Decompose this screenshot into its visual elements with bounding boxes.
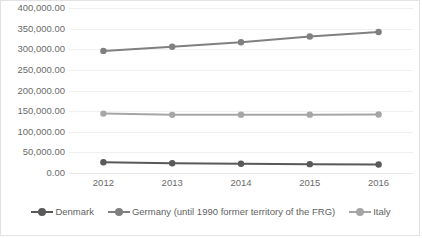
gridline bbox=[69, 173, 413, 174]
y-axis-tick-label: 200,000.00 bbox=[1, 86, 65, 96]
y-axis-tick-label: 400,000.00 bbox=[1, 3, 65, 13]
legend-item[interactable]: Germany (until 1990 former territory of … bbox=[108, 206, 335, 217]
plot-area bbox=[69, 8, 413, 173]
legend-label: Germany (until 1990 former territory of … bbox=[132, 206, 335, 217]
legend-marker-icon bbox=[31, 207, 53, 216]
data-point bbox=[238, 39, 244, 45]
x-axis-tick-label: 2014 bbox=[230, 177, 251, 188]
data-point bbox=[307, 111, 313, 117]
x-axis-tick-label: 2015 bbox=[299, 177, 320, 188]
x-axis-tick-label: 2013 bbox=[162, 177, 183, 188]
data-point bbox=[238, 161, 244, 167]
data-point bbox=[375, 29, 381, 35]
y-axis-tick-label: 100,000.00 bbox=[1, 127, 65, 137]
y-axis: 0.0050,000.00100,000.00150,000.00200,000… bbox=[1, 1, 65, 181]
data-point bbox=[100, 110, 106, 116]
y-axis-tick-label: 150,000.00 bbox=[1, 106, 65, 116]
line-chart: 0.0050,000.00100,000.00150,000.00200,000… bbox=[0, 0, 420, 236]
series-layer bbox=[69, 8, 413, 173]
x-axis-tick-label: 2012 bbox=[93, 177, 114, 188]
legend-label: Denmark bbox=[55, 206, 94, 217]
y-axis-tick-label: 250,000.00 bbox=[1, 65, 65, 75]
chart-legend: DenmarkGermany (until 1990 former territ… bbox=[1, 206, 421, 217]
data-point bbox=[169, 112, 175, 118]
y-axis-tick-label: 300,000.00 bbox=[1, 44, 65, 54]
legend-label: Italy bbox=[373, 206, 390, 217]
data-point bbox=[307, 33, 313, 39]
series-denmark bbox=[100, 159, 382, 168]
data-point bbox=[169, 160, 175, 166]
y-axis-tick-label: 0.00 bbox=[1, 168, 65, 178]
legend-item[interactable]: Italy bbox=[349, 206, 390, 217]
legend-marker-icon bbox=[349, 207, 371, 216]
data-point bbox=[100, 159, 106, 165]
legend-item[interactable]: Denmark bbox=[31, 206, 94, 217]
x-axis: 20122013201420152016 bbox=[69, 177, 413, 193]
data-point bbox=[169, 44, 175, 50]
y-axis-tick-label: 50,000.00 bbox=[1, 147, 65, 157]
data-point bbox=[307, 161, 313, 167]
data-point bbox=[375, 161, 381, 167]
data-point bbox=[375, 111, 381, 117]
series-germany bbox=[100, 29, 382, 54]
x-axis-tick-label: 2016 bbox=[368, 177, 389, 188]
series-italy bbox=[100, 110, 382, 118]
data-point bbox=[238, 111, 244, 117]
data-point bbox=[100, 48, 106, 54]
legend-marker-icon bbox=[108, 207, 130, 216]
y-axis-tick-label: 350,000.00 bbox=[1, 24, 65, 34]
